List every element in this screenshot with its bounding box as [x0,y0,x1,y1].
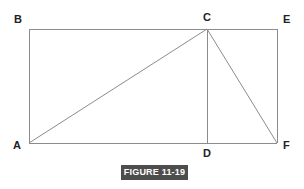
vertex-label-C: C [203,12,211,23]
vertex-label-B: B [14,14,22,25]
vertex-label-A: A [13,140,21,151]
figure-container: B C E A D F FIGURE 11-19 [0,0,304,189]
segment-AC [29,29,207,143]
figure-caption-bar: FIGURE 11-19 [121,165,188,180]
rectangle-outline [29,29,277,143]
segment-CF [207,29,277,143]
vertex-label-F: F [283,140,290,151]
geometry-diagram [0,0,304,189]
interior-segments [29,29,277,143]
figure-caption-text: FIGURE 11-19 [124,168,185,177]
vertex-label-D: D [203,148,211,159]
vertex-label-E: E [283,14,290,25]
